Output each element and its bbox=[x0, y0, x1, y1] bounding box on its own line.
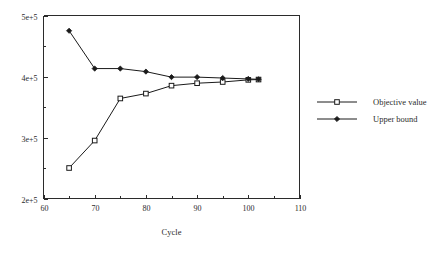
legend-label: Objective value bbox=[373, 97, 427, 107]
x-axis-tick-label: 80 bbox=[143, 204, 151, 213]
legend-entry: Objective value bbox=[317, 97, 427, 107]
series-objective-value bbox=[67, 77, 261, 170]
legend-sample-marker bbox=[335, 100, 340, 105]
series-upper-bound bbox=[67, 28, 262, 82]
data-point-marker bbox=[169, 75, 174, 80]
y-axis-tick-label: 5e+5 bbox=[21, 13, 37, 22]
data-point-marker bbox=[92, 138, 97, 143]
legend-entry: Upper bound bbox=[317, 114, 418, 124]
data-point-marker bbox=[118, 66, 123, 71]
x-axis-tick-label: 60 bbox=[41, 204, 49, 213]
x-axis-tick-label: 70 bbox=[92, 204, 100, 213]
data-point-marker bbox=[144, 91, 149, 96]
data-point-marker bbox=[195, 75, 200, 80]
data-point-marker bbox=[118, 96, 123, 101]
series-line bbox=[69, 31, 258, 80]
series-plot-area bbox=[67, 28, 262, 170]
plot-frame bbox=[44, 16, 300, 199]
series-line bbox=[69, 80, 258, 168]
x-axis-tick-label: 100 bbox=[243, 204, 255, 213]
data-point-marker bbox=[195, 81, 200, 86]
x-axis-title: Cycle bbox=[162, 227, 182, 237]
data-point-marker bbox=[67, 166, 72, 171]
y-axis-tick-label: 4e+5 bbox=[21, 74, 37, 83]
y-axis-tick-label: 2e+5 bbox=[21, 196, 37, 205]
x-axis-tick-label: 110 bbox=[295, 204, 307, 213]
x-axis: 60708090100110 bbox=[41, 195, 307, 213]
legend-label: Upper bound bbox=[373, 114, 418, 124]
data-point-marker bbox=[143, 69, 148, 74]
legend-sample-marker bbox=[334, 116, 339, 121]
x-axis-tick-label: 90 bbox=[194, 204, 202, 213]
y-axis-tick-label: 3e+5 bbox=[21, 135, 37, 144]
line-chart-svg: 2e+53e+54e+55e+5 60708090100110 Cycle Ob… bbox=[0, 0, 437, 255]
chart-figure: 2e+53e+54e+55e+5 60708090100110 Cycle Ob… bbox=[0, 0, 437, 255]
data-point-marker bbox=[169, 83, 174, 88]
chart-legend: Objective valueUpper bound bbox=[317, 97, 427, 124]
